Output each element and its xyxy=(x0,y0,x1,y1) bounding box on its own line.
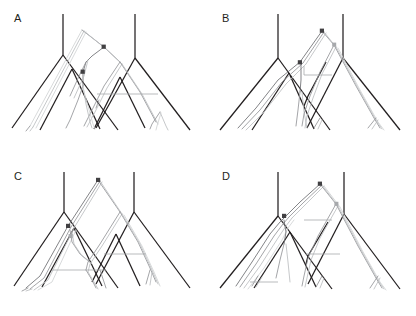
event-node-marker xyxy=(81,70,85,74)
panel-a-diagram xyxy=(0,0,208,158)
panel-a: A xyxy=(0,0,208,158)
event-node-marker xyxy=(298,60,302,64)
panel-label-b: B xyxy=(222,12,230,24)
species-tree-a xyxy=(12,14,190,130)
panel-b: B xyxy=(208,0,416,158)
species-tree-c xyxy=(14,172,190,288)
event-node-marker xyxy=(318,182,322,186)
gene-tree-d xyxy=(236,184,386,290)
event-node-marker xyxy=(96,178,100,182)
event-node-marker xyxy=(320,29,324,33)
panel-label-d: D xyxy=(222,170,230,182)
event-node-marker xyxy=(282,214,286,218)
event-node-marker xyxy=(334,202,338,206)
panel-b-diagram xyxy=(208,0,416,158)
panel-label-a: A xyxy=(14,12,22,24)
event-node-marker xyxy=(69,234,73,238)
event-node-marker xyxy=(102,45,106,49)
gene-tree-c xyxy=(22,180,160,291)
panel-d-diagram xyxy=(208,158,416,316)
event-node-marker xyxy=(332,43,336,47)
panel-c: C xyxy=(0,158,208,316)
panel-d: D xyxy=(208,158,416,316)
panel-label-c: C xyxy=(14,170,22,182)
panel-c-diagram xyxy=(0,158,208,316)
event-node-marker xyxy=(66,224,70,228)
figure-canvas: A xyxy=(0,0,416,316)
